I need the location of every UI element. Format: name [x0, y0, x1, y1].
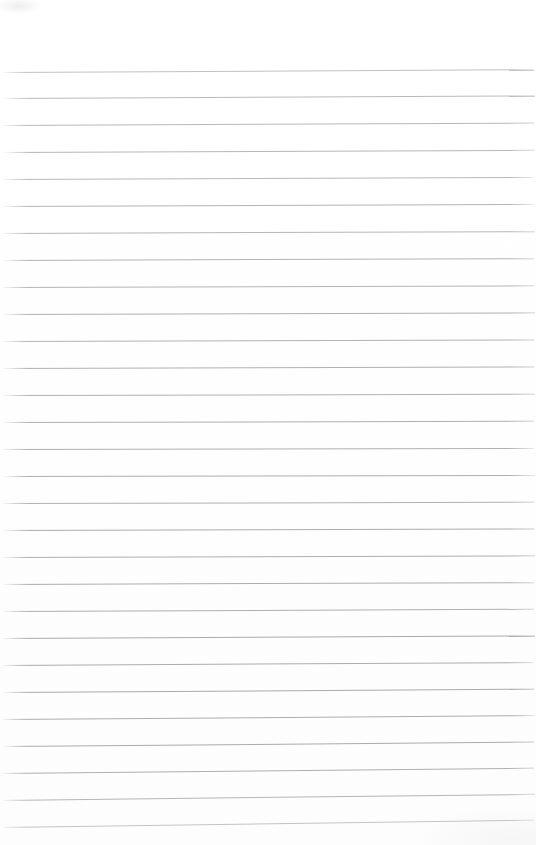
rule-line: [2, 231, 535, 234]
rule-line: [3, 635, 535, 639]
rule-line: [3, 367, 534, 369]
rule-line: [2, 768, 534, 774]
rule-line: [3, 529, 534, 531]
writing-line[interactable]: [0, 298, 536, 314]
writing-line[interactable]: [0, 784, 536, 800]
writing-line[interactable]: [0, 649, 536, 665]
rule-line: [4, 150, 535, 153]
rule-line: [2, 69, 534, 73]
writing-line[interactable]: [0, 109, 536, 125]
rule-line: [2, 285, 534, 288]
writing-line[interactable]: [0, 541, 536, 557]
writing-line[interactable]: [0, 811, 536, 827]
rule-line: [2, 340, 534, 342]
rule-line: [3, 204, 534, 207]
writing-line[interactable]: [0, 325, 536, 341]
writing-line[interactable]: [0, 433, 536, 449]
writing-line[interactable]: [0, 622, 536, 638]
writing-line[interactable]: [0, 379, 536, 395]
writing-line[interactable]: [0, 406, 536, 422]
writing-line[interactable]: [0, 514, 536, 530]
rule-line: [3, 475, 535, 477]
rule-line: [3, 582, 534, 585]
writing-line[interactable]: [0, 703, 536, 719]
rule-line: [3, 95, 535, 99]
writing-line[interactable]: [0, 163, 536, 179]
rule-line: [2, 609, 534, 612]
notepad-page: [0, 0, 536, 845]
writing-line[interactable]: [0, 730, 536, 746]
rule-line: [2, 123, 534, 126]
rule-line: [3, 421, 534, 423]
rule-line: [2, 662, 534, 666]
writing-line[interactable]: [0, 595, 536, 611]
writing-line[interactable]: [0, 271, 536, 287]
rule-line: [2, 394, 535, 396]
rule-line: [2, 715, 535, 720]
writing-line[interactable]: [0, 676, 536, 692]
rule-line: [2, 448, 534, 450]
scan-smudge-bottom-right-icon: [416, 805, 536, 845]
writing-line[interactable]: [0, 190, 536, 206]
ruled-line-layer: [0, 0, 536, 845]
writing-line[interactable]: [0, 217, 536, 233]
writing-line[interactable]: [0, 352, 536, 368]
rule-line: [3, 689, 534, 693]
rule-line: [3, 742, 534, 747]
writing-line[interactable]: [0, 136, 536, 152]
rule-line: [2, 177, 534, 180]
rule-line: [2, 555, 535, 558]
scan-smudge-top-left-icon: [0, 0, 42, 14]
rule-line: [3, 794, 535, 801]
writing-line[interactable]: [0, 244, 536, 260]
rule-line: [3, 312, 535, 315]
writing-line[interactable]: [0, 82, 536, 98]
rule-line: [3, 258, 534, 261]
paper-surface: [0, 0, 536, 845]
rule-line: [2, 820, 534, 828]
writing-line[interactable]: [0, 757, 536, 773]
writing-line[interactable]: [0, 56, 536, 72]
writing-line[interactable]: [0, 568, 536, 584]
rule-line: [2, 502, 534, 504]
writing-line[interactable]: [0, 487, 536, 503]
writing-line[interactable]: [0, 460, 536, 476]
